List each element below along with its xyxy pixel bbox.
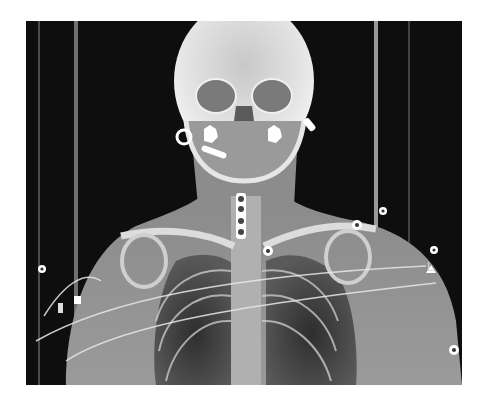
laterality-marker: L	[427, 260, 434, 274]
xray-image	[26, 21, 462, 385]
radiograph-illustration	[26, 21, 462, 385]
